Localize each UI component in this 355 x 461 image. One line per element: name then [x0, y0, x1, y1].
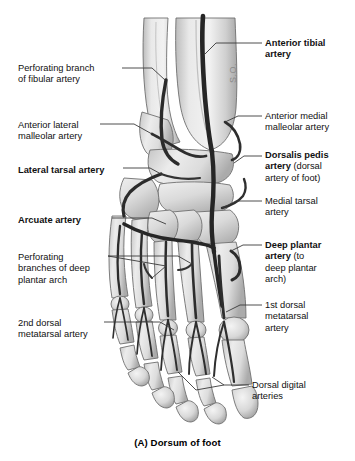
toe2-distal-phalanx [204, 403, 226, 424]
label-perforating-branches-deep-plantar-arch: Perforating branches of deep plantar arc… [18, 252, 90, 286]
label-perforating-branch-fibular: Perforating branch of fibular artery [18, 63, 95, 86]
metatarsal-1 [206, 242, 246, 318]
toe3-distal-phalanx [176, 401, 198, 422]
toe2-middle-phalanx [196, 378, 216, 406]
watermark-text: S.O. [228, 43, 238, 83]
label-arcuate: Arcuate artery [18, 215, 81, 226]
label-dorsal-digital: Dorsal digital arteries [252, 380, 306, 403]
label-anterior-lateral-malleolar: Anterior lateral malleolar artery [18, 120, 82, 143]
metatarsal-1-head [219, 317, 249, 343]
label-deep-plantar: Deep plantar artery (to deep plantar arc… [265, 240, 345, 286]
label-lateral-tarsal: Lateral tarsal artery [18, 165, 104, 176]
label-1st-dorsal-metatarsal: 1st dorsal metatarsal artery [265, 300, 308, 334]
toe4-distal-phalanx [152, 387, 174, 408]
label-dorsalis-pedis: Dorsalis pedis artery (dorsal artery of … [265, 150, 349, 184]
figure-caption: (A) Dorsum of foot [0, 437, 355, 448]
label-medial-tarsal: Medial tarsal artery [265, 196, 318, 219]
foot-dorsum-anatomical-figure: S.O. Perforating branch of fibular arter… [0, 0, 355, 461]
dorsalis-pedis-artery [212, 152, 214, 252]
hallux-proximal-phalanx [222, 340, 252, 386]
label-anterior-medial-malleolar: Anterior medial malleolar artery [265, 111, 329, 134]
label-2nd-dorsal-metatarsal: 2nd dorsal metatarsal artery [18, 318, 88, 341]
label-anterior-tibial: Anterior tibial artery [265, 38, 325, 61]
